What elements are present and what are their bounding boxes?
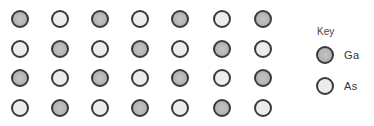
ga-atom-icon [171,10,189,28]
ga-atom-icon [316,46,334,64]
as-atom-icon [131,10,149,28]
ga-atom-icon [51,99,69,117]
ga-atom-icon [171,69,189,87]
ga-atom-icon [11,69,29,87]
legend-label-ga: Ga [344,49,360,61]
ga-atom-icon [213,99,231,117]
ga-atom-icon [254,10,272,28]
as-atom-icon [254,40,272,58]
ga-atom-icon [254,69,272,87]
as-atom-icon [213,69,231,87]
ga-atom-icon [91,10,109,28]
as-atom-icon [11,99,29,117]
as-atom-icon [51,10,69,28]
ga-atom-icon [11,10,29,28]
as-atom-icon [131,69,149,87]
as-atom-icon [171,40,189,58]
as-atom-icon [213,10,231,28]
legend-item-as: As [316,77,358,95]
legend-item-ga: Ga [316,46,360,64]
ga-atom-icon [131,99,149,117]
legend-label-as: As [344,80,358,92]
lattice-grid [0,0,290,126]
as-atom-icon [171,99,189,117]
ga-atom-icon [213,40,231,58]
as-atom-icon [11,40,29,58]
as-atom-icon [91,40,109,58]
as-atom-icon [51,69,69,87]
legend: Key Ga As [316,26,374,106]
as-atom-icon [254,99,272,117]
legend-title: Key [317,26,334,37]
as-atom-icon [316,77,334,95]
ga-atom-icon [51,40,69,58]
as-atom-icon [91,99,109,117]
ga-atom-icon [91,69,109,87]
ga-atom-icon [131,40,149,58]
